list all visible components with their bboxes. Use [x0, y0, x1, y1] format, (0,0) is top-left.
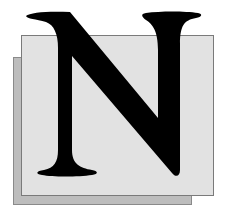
letter-n-glyph: N [0, 0, 225, 213]
initial-letter-graphic: N [0, 0, 225, 213]
